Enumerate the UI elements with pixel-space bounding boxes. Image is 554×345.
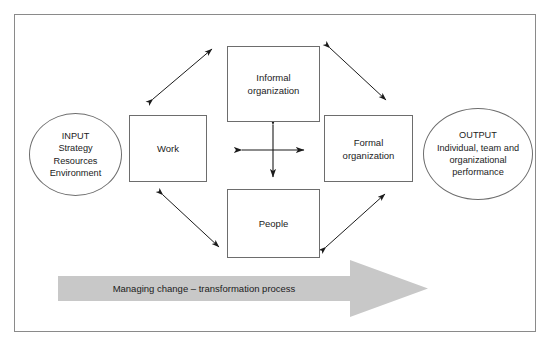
input-ellipse[interactable]: INPUT Strategy Resources Environment — [29, 113, 122, 196]
output-ellipse-label: OUTPUT Individual, team and organization… — [431, 129, 525, 179]
node-formal-organization[interactable]: Formal organization — [324, 115, 413, 182]
output-ellipse[interactable]: OUTPUT Individual, team and organization… — [423, 108, 533, 200]
node-informal-organization-label: Informal organization — [244, 71, 304, 97]
node-work-label: Work — [153, 142, 183, 155]
node-work[interactable]: Work — [129, 115, 207, 182]
node-formal-organization-label: Formal organization — [339, 136, 399, 162]
input-ellipse-label: INPUT Strategy Resources Environment — [44, 130, 108, 180]
node-people-label: People — [255, 217, 293, 230]
node-people[interactable]: People — [227, 189, 320, 258]
managing-change-arrow-label: Managing change – transformation process — [58, 276, 350, 301]
node-informal-organization[interactable]: Informal organization — [227, 46, 320, 122]
diagram-canvas: Informal organization Work Formal organi… — [0, 0, 554, 345]
